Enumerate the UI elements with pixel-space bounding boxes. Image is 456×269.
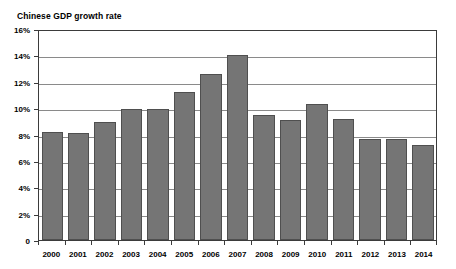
x-axis-slot: 2005 [171, 241, 198, 269]
bar-2012 [359, 139, 380, 240]
x-axis-slot: 2007 [224, 241, 251, 269]
x-axis-tick-mark [144, 241, 145, 245]
bar-series [39, 31, 436, 240]
x-axis-tick-label: 2005 [175, 250, 193, 259]
y-axis-tick-label: 14% [14, 52, 30, 61]
bar-slot [118, 31, 144, 240]
y-axis-tick-label: 12% [14, 78, 30, 87]
chart-screenshot: Chinese GDP growth rate 02%4%6%8%10%12%1… [0, 0, 456, 269]
x-axis-tick-mark [331, 241, 332, 245]
bar-2007 [227, 55, 248, 240]
x-axis-tick-label: 2010 [308, 250, 326, 259]
bar-2010 [306, 104, 327, 240]
x-axis-tick-mark [118, 241, 119, 245]
x-axis-slot: 2009 [277, 241, 304, 269]
x-axis: 2000200120022003200420052006200720082009… [38, 241, 437, 269]
x-axis-tick-mark [65, 241, 66, 245]
x-axis-tick-mark [436, 241, 437, 245]
x-axis-tick-mark [410, 241, 411, 245]
y-axis-tick-label: 4% [18, 184, 30, 193]
x-axis-slot: 2002 [91, 241, 118, 269]
x-axis-tick-mark [224, 241, 225, 245]
x-axis-slot: 2010 [304, 241, 331, 269]
x-axis-tick-label: 2011 [335, 250, 352, 259]
bar-slot [224, 31, 250, 240]
x-axis-slot: 2011 [331, 241, 358, 269]
x-axis-slot: 2014 [410, 241, 437, 269]
x-axis-tick-label: 2006 [202, 250, 220, 259]
chart-title: Chinese GDP growth rate [17, 11, 122, 21]
x-axis-slot: 2000 [38, 241, 65, 269]
x-axis-slot: 2012 [357, 241, 384, 269]
x-axis-slot: 2001 [65, 241, 92, 269]
y-axis-tick-label: 10% [14, 105, 30, 114]
x-axis-tick-label: 2012 [362, 250, 380, 259]
bar-2006 [200, 74, 221, 240]
bar-slot [410, 31, 436, 240]
x-axis-slot: 2008 [251, 241, 278, 269]
bar-slot [304, 31, 330, 240]
y-axis-tick-label: 16% [14, 26, 30, 35]
x-axis-tick-label: 2009 [282, 250, 300, 259]
bar-2000 [42, 132, 63, 240]
x-axis-tick-mark [304, 241, 305, 245]
bar-slot [383, 31, 409, 240]
x-axis-tick-label: 2000 [42, 250, 60, 259]
x-axis-tick-mark [384, 241, 385, 245]
bar-2011 [333, 119, 354, 240]
bar-slot [357, 31, 383, 240]
x-axis-slot: 2003 [118, 241, 145, 269]
bar-2009 [280, 120, 301, 240]
bar-slot [145, 31, 171, 240]
bar-slot [171, 31, 197, 240]
bar-2001 [68, 133, 89, 240]
x-axis-tick-mark [38, 241, 39, 245]
y-axis-tick-label: 8% [18, 131, 30, 140]
x-axis-tick-label: 2014 [415, 250, 433, 259]
bar-slot [251, 31, 277, 240]
x-axis-tick-mark [198, 241, 199, 245]
bar-2014 [412, 145, 433, 240]
bar-slot [92, 31, 118, 240]
x-axis-tick-mark [357, 241, 358, 245]
bar-2002 [94, 122, 115, 240]
x-axis-slot: 2006 [198, 241, 225, 269]
bar-slot [198, 31, 224, 240]
y-axis: 02%4%6%8%10%12%14%16% [0, 30, 38, 241]
bar-2005 [174, 92, 195, 240]
bar-2003 [121, 109, 142, 240]
bar-slot [277, 31, 303, 240]
x-axis-slot: 2004 [144, 241, 171, 269]
bar-2004 [147, 109, 168, 240]
x-axis-tick-mark [251, 241, 252, 245]
y-axis-tick-label: 2% [18, 210, 30, 219]
bar-2008 [253, 115, 274, 240]
bar-slot [39, 31, 65, 240]
bar-slot [330, 31, 356, 240]
x-axis-tick-mark [171, 241, 172, 245]
bar-2013 [386, 139, 407, 240]
x-axis-tick-label: 2003 [122, 250, 140, 259]
x-axis-tick-label: 2001 [69, 250, 87, 259]
plot-area [38, 30, 437, 241]
x-axis-tick-label: 2004 [149, 250, 167, 259]
x-axis-slot: 2013 [384, 241, 411, 269]
x-axis-tick-mark [91, 241, 92, 245]
y-axis-tick-label: 6% [18, 157, 30, 166]
x-axis-tick-label: 2007 [229, 250, 247, 259]
x-axis-tick-label: 2013 [388, 250, 406, 259]
bar-slot [65, 31, 91, 240]
x-axis-tick-mark [277, 241, 278, 245]
y-axis-tick-label: 0 [26, 237, 30, 246]
x-axis-tick-label: 2002 [96, 250, 114, 259]
x-axis-tick-label: 2008 [255, 250, 273, 259]
